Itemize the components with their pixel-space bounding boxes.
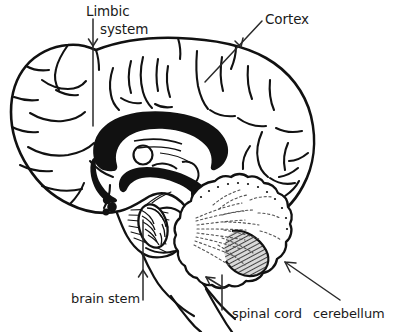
- label-cortex: Cortex: [265, 11, 309, 27]
- thalamus: [134, 146, 153, 165]
- brain-diagram-svg: Limbic system Cortex brain stem spinal c…: [0, 0, 397, 332]
- limbic-knob-3: [103, 209, 110, 216]
- label-cerebellum: cerebellum: [313, 306, 385, 321]
- label-brain-stem: brain stem: [71, 291, 140, 306]
- label-limbic-system-line2: system: [100, 21, 148, 37]
- label-limbic-system-line1: Limbic: [86, 3, 130, 19]
- label-spinal-cord: spinal cord: [232, 306, 302, 321]
- brain-diagram: Limbic system Cortex brain stem spinal c…: [0, 0, 397, 332]
